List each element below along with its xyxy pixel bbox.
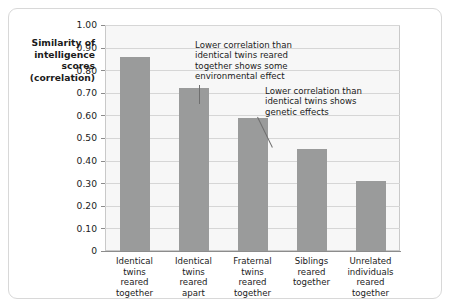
annotation-environmental-effect: Lower correlation than identical twins r… bbox=[195, 40, 315, 81]
category-label-line: twins bbox=[164, 267, 223, 278]
y-tick-label: 0.40 bbox=[57, 156, 97, 165]
category-label-line: reared bbox=[223, 277, 282, 288]
y-tick-label: 0.50 bbox=[57, 133, 97, 142]
y-tick-label: 0.90 bbox=[57, 43, 97, 52]
y-tick-mark bbox=[101, 206, 105, 207]
y-tick-label: 0.10 bbox=[57, 224, 97, 233]
category-label-line: reared bbox=[341, 277, 400, 288]
category-label-line: reared bbox=[282, 267, 341, 278]
y-tick-mark bbox=[101, 93, 105, 94]
x-axis-category-label: Siblingsrearedtogether bbox=[282, 256, 341, 288]
y-tick-mark bbox=[101, 161, 105, 162]
y-tick-label: 0.70 bbox=[57, 88, 97, 97]
y-tick-mark bbox=[101, 138, 105, 139]
annotation-line: genetic effects bbox=[265, 107, 383, 117]
x-axis-category-label: Identicaltwinsrearedtogether bbox=[105, 256, 164, 298]
y-tick-label: 0.80 bbox=[57, 66, 97, 75]
annotation-line: identical twins reared bbox=[195, 50, 315, 60]
bar bbox=[120, 57, 150, 251]
y-tick-label: 0.20 bbox=[57, 201, 97, 210]
category-label-line: together bbox=[282, 277, 341, 288]
bar bbox=[179, 88, 209, 251]
y-tick-mark bbox=[101, 251, 105, 252]
x-axis-category-label: Identicaltwinsrearedapart bbox=[164, 256, 223, 298]
y-tick-mark bbox=[101, 25, 105, 26]
y-tick-mark bbox=[101, 115, 105, 116]
annotation-leader-line bbox=[199, 85, 200, 104]
category-label-line: reared bbox=[164, 277, 223, 288]
y-tick-mark bbox=[101, 70, 105, 71]
category-label-line: twins bbox=[223, 267, 282, 278]
bar bbox=[297, 149, 327, 251]
category-label-line: Siblings bbox=[282, 256, 341, 267]
category-label-line: Unrelated bbox=[341, 256, 400, 267]
category-label-line: individuals bbox=[341, 267, 400, 278]
x-axis-category-label: Unrelatedindividualsrearedtogether bbox=[341, 256, 400, 298]
annotation-line: identical twins shows bbox=[265, 96, 383, 106]
annotation-line: Lower correlation than bbox=[195, 40, 315, 50]
category-label-line: together bbox=[105, 288, 164, 299]
annotation-line: together shows some bbox=[195, 61, 315, 71]
category-label-line: together bbox=[341, 288, 400, 299]
category-label-line: twins bbox=[105, 267, 164, 278]
bar bbox=[238, 118, 268, 251]
y-tick-label: 0.60 bbox=[57, 111, 97, 120]
category-label-line: Identical bbox=[164, 256, 223, 267]
x-axis-category-label: Fraternaltwinsrearedtogether bbox=[223, 256, 282, 298]
y-tick-label: 0.30 bbox=[57, 179, 97, 188]
category-label-line: reared bbox=[105, 277, 164, 288]
y-tick-label: 0 bbox=[57, 246, 97, 255]
category-label-line: apart bbox=[164, 288, 223, 299]
category-label-line: together bbox=[223, 288, 282, 299]
y-tick-mark bbox=[101, 228, 105, 229]
category-label-line: Identical bbox=[105, 256, 164, 267]
y-tick-mark bbox=[101, 183, 105, 184]
annotation-line: environmental effect bbox=[195, 71, 315, 81]
annotation-line: Lower correlation than bbox=[265, 86, 383, 96]
y-tick-label: 1.00 bbox=[57, 20, 97, 29]
chart-figure: Similarity of intelligence scores (corre… bbox=[8, 8, 442, 299]
y-tick-mark bbox=[101, 48, 105, 49]
gridline bbox=[105, 25, 400, 26]
bar bbox=[356, 181, 386, 251]
annotation-genetic-effects: Lower correlation than identical twins s… bbox=[265, 86, 383, 117]
category-label-line: Fraternal bbox=[223, 256, 282, 267]
x-axis-line bbox=[105, 251, 401, 252]
